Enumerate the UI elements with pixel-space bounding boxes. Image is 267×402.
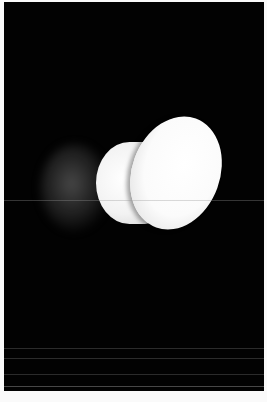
scan-line: [4, 358, 264, 359]
scan-line: [4, 386, 264, 387]
photo-frame: [4, 2, 264, 391]
scan-line: [4, 374, 264, 375]
scan-line: [4, 348, 264, 349]
scan-line: [4, 200, 264, 201]
